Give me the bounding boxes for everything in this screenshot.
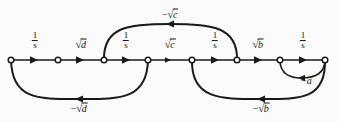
- edge-label-e6: √b: [252, 39, 263, 50]
- arrowhead-forward-3: [122, 56, 130, 64]
- feedback-label-f3: −√b: [253, 103, 270, 114]
- node-n1: [8, 57, 14, 63]
- edge-label-e3: 1 s: [123, 31, 130, 51]
- node-n6: [234, 57, 240, 63]
- feedback-label-f1: −√d: [71, 103, 88, 114]
- arrowhead-forward-2: [76, 56, 84, 64]
- arrowhead-feedback-sqrt-c: [166, 20, 174, 27]
- node-n8: [322, 57, 328, 63]
- node-n7: [277, 57, 283, 63]
- feedback-arc-minus-sqrt-d: [11, 60, 148, 99]
- edge-label-e2: √d: [75, 39, 86, 50]
- feedback-label-f2: −√c: [162, 9, 178, 20]
- feedback-label-f4: −a: [300, 76, 312, 86]
- arrowhead-forward-4: [165, 57, 171, 62]
- arrowhead-forward-6: [254, 56, 262, 64]
- edge-label-e1: 1 s: [32, 31, 39, 51]
- figure-canvas: 1 s √d 1 s √c 1 s √b 1 s: [0, 0, 340, 122]
- arrowhead-forward-5: [211, 56, 219, 64]
- node-n4: [145, 57, 151, 63]
- arrowhead-forward-7: [299, 56, 307, 64]
- arrowhead-forward-1: [30, 56, 38, 64]
- node-n3: [101, 57, 107, 63]
- node-n5: [189, 57, 195, 63]
- edge-label-e7: 1 s: [300, 31, 307, 51]
- node-n2: [55, 57, 61, 63]
- edge-label-e5: 1 s: [212, 31, 219, 51]
- edge-label-e4: √c: [165, 39, 176, 50]
